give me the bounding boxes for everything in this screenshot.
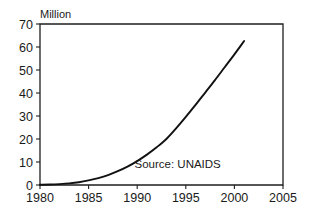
source-note: Source: UNAIDS — [135, 158, 222, 170]
line-chart: Million 010203040506070 1980198519901995… — [0, 0, 309, 216]
y-tick-label-30: 30 — [19, 110, 33, 124]
y-tick-label-60: 60 — [19, 41, 33, 55]
y-tick-label-50: 50 — [19, 64, 33, 78]
y-axis-title: Million — [40, 8, 71, 20]
annotation-group: Source: UNAIDS — [135, 158, 222, 170]
y-tick-label-10: 10 — [19, 156, 33, 170]
x-tick-label-1995: 1995 — [172, 191, 200, 205]
x-tick-label-2000: 2000 — [220, 191, 248, 205]
x-tick-label-1980: 1980 — [26, 191, 54, 205]
x-tick-label-2005: 2005 — [269, 191, 297, 205]
y-tick-label-20: 20 — [19, 133, 33, 147]
y-tick-label-40: 40 — [19, 87, 33, 101]
x-tick-label-1990: 1990 — [123, 191, 151, 205]
y-tick-label-70: 70 — [19, 18, 33, 32]
x-tick-label-1985: 1985 — [75, 191, 103, 205]
chart-container: Million 010203040506070 1980198519901995… — [0, 0, 309, 216]
chart-background — [0, 0, 309, 216]
